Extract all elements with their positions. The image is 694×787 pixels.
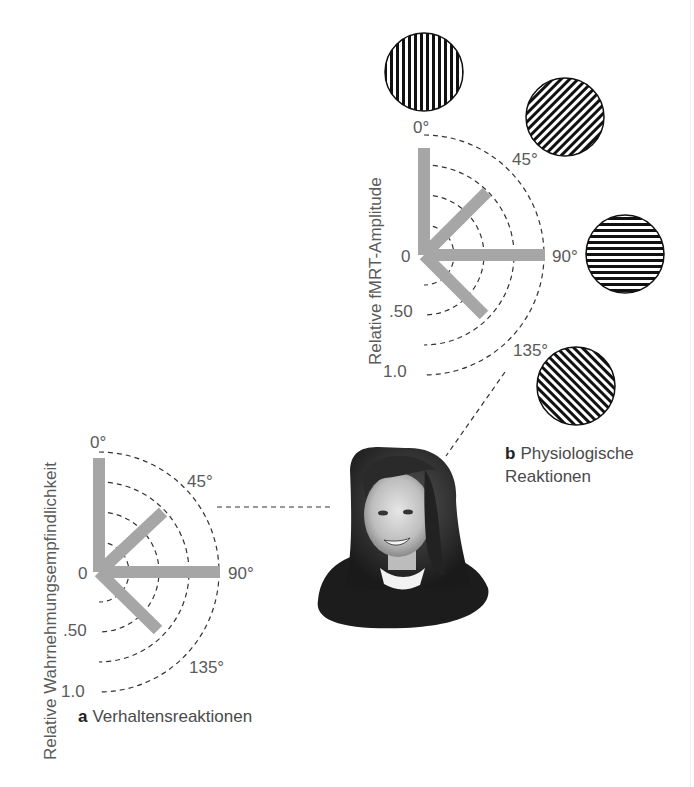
angle-90-b: 90°	[552, 247, 578, 266]
caption-b-line1: bPhysiologische	[505, 444, 634, 463]
ylabel-a: Relative Wahrnehmungsempfindlichkeit	[41, 462, 60, 760]
angle-0-b: 0°	[413, 118, 429, 137]
grating-45-circle	[480, 32, 650, 202]
angle-45-b: 45°	[512, 150, 538, 169]
polar-bars-b	[424, 148, 545, 315]
tick-0-a: 0	[78, 564, 87, 583]
grating-90-circle	[565, 194, 685, 314]
caption-b-line2: Reaktionen	[505, 467, 591, 486]
angle-90-a: 90°	[228, 564, 254, 583]
tick-0-b: 0	[401, 247, 410, 266]
tick-050-b: .50	[389, 302, 413, 321]
angle-135-a: 135°	[189, 658, 224, 677]
angle-0-a: 0°	[90, 433, 106, 452]
caption-a: aVerhaltensreaktionen	[78, 707, 252, 726]
connector-b	[446, 372, 505, 456]
tick-10-a: 1.0	[61, 682, 85, 701]
tick-10-b: 1.0	[383, 362, 407, 381]
angle-135-b: 135°	[513, 341, 548, 360]
tick-050-a: .50	[63, 621, 87, 640]
angle-45-a: 45°	[187, 472, 213, 491]
grating-0-circle	[380, 28, 470, 118]
woman-portrait	[318, 447, 489, 628]
polar-plot-b: 0 .50 1.0 0° 45° 90° 135° Relative fMRT-…	[366, 118, 578, 381]
ylabel-b: Relative fMRT-Amplitude	[366, 177, 385, 365]
